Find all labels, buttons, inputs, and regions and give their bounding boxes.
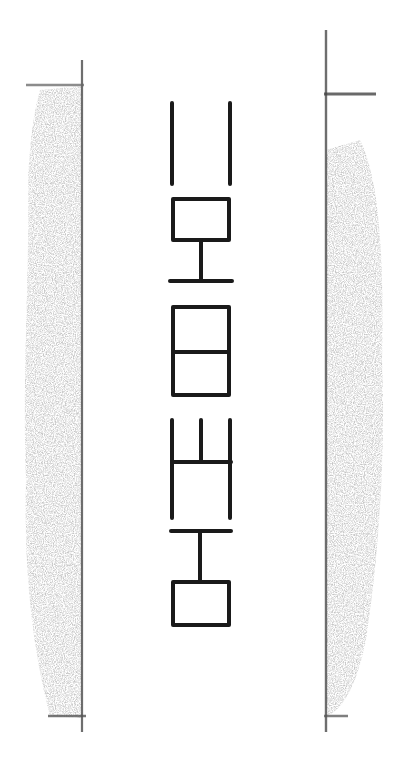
diagram-canvas [0, 0, 411, 761]
right-shaded-border [0, 0, 411, 761]
diagram-svg [0, 0, 411, 761]
